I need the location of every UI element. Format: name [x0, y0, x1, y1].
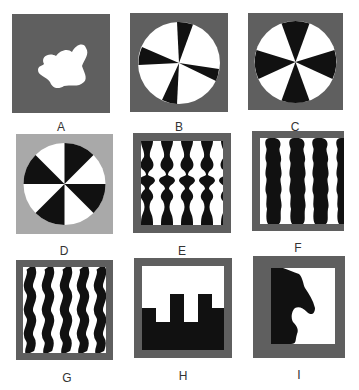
- panel-label-g: G: [52, 372, 82, 384]
- panel-label-f: F: [283, 242, 313, 254]
- panel-label-e: E: [167, 245, 197, 257]
- panel-d: [16, 134, 113, 234]
- panel-c: [248, 13, 343, 110]
- panel-label-i: I: [284, 369, 314, 381]
- panel-label-h: H: [168, 370, 198, 382]
- crenellated-shape-icon: [134, 258, 232, 358]
- panel-b: [130, 13, 228, 112]
- asymmetric-sector-circle-icon: [130, 13, 228, 112]
- panel-label-d: D: [49, 245, 79, 257]
- wavy-bands-icon: [252, 131, 344, 231]
- panel-label-a: A: [46, 121, 76, 133]
- panel-f: [252, 131, 344, 231]
- blob-figure-icon: [12, 14, 110, 113]
- wavy-stripes-icon: [16, 260, 113, 360]
- panel-h: [134, 258, 232, 358]
- panel-i: [253, 256, 345, 358]
- panel-label-b: B: [164, 121, 194, 133]
- ornamental-columns-icon: [133, 133, 231, 233]
- knight-silhouette-icon: [253, 256, 345, 358]
- panel-a: [12, 14, 110, 113]
- panel-e: [133, 133, 231, 233]
- panel-g: [16, 260, 113, 360]
- light-background-sector-circle-icon: [16, 134, 113, 234]
- symmetric-sector-circle-icon: [248, 13, 343, 110]
